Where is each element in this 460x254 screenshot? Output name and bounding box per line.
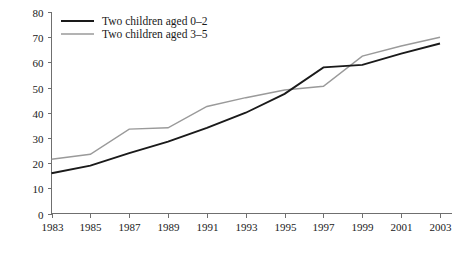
x-tick-label: 1985 [80,221,103,233]
x-tick-label: 1987 [119,221,142,233]
y-tick-label: 10 [33,183,45,195]
x-tick-label: 1993 [236,221,259,233]
legend-label-1: Two children aged 0–2 [102,15,208,28]
y-axis-ticks [48,13,52,215]
y-tick-label: 30 [33,133,45,145]
chart-page: 01020304050607080 1983198519871989199119… [0,0,460,254]
x-tick-label: 1995 [275,221,298,233]
y-axis-tick-labels: 01020304050607080 [33,7,45,221]
series-line-1 [52,43,441,173]
x-tick-label: 2001 [391,221,413,233]
x-axis-ticks [53,214,441,218]
y-tick-label: 70 [33,32,45,44]
x-tick-label: 1989 [158,221,181,233]
series-line-2 [52,37,441,159]
y-tick-label: 60 [33,57,45,69]
x-tick-label: 2003 [430,221,453,233]
line-chart: 01020304050607080 1983198519871989199119… [0,0,460,254]
y-tick-label: 50 [33,83,45,95]
x-tick-label: 1991 [197,221,219,233]
data-series-group [52,37,441,173]
y-tick-label: 0 [38,209,44,221]
y-tick-label: 20 [33,158,45,170]
y-tick-label: 40 [33,108,45,120]
y-tick-label: 80 [33,7,45,19]
x-tick-label: 1983 [42,221,65,233]
x-tick-label: 1997 [313,221,336,233]
x-tick-label: 1999 [352,221,375,233]
x-axis-tick-labels: 1983198519871989199119931995199719992001… [42,221,453,233]
legend-label-2: Two children aged 3–5 [102,28,208,41]
chart-legend: Two children aged 0–2Two children aged 3… [61,15,208,41]
